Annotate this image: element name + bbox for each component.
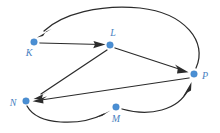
vertex-p-label: P	[201, 70, 208, 81]
edge-n-to-m-curve	[27, 106, 104, 122]
vertex-l-dot[interactable]	[107, 42, 114, 49]
vertex-p[interactable]: P	[191, 70, 208, 81]
vertex-m[interactable]: M	[111, 104, 121, 124]
vertex-l[interactable]: L	[107, 27, 117, 48]
vertex-m-label: M	[111, 113, 121, 124]
vertex-m-dot[interactable]	[113, 104, 120, 111]
edge-l-to-n-arrowhead	[34, 92, 48, 100]
edge-k-to-l	[40, 41, 106, 48]
edge-m-to-p-arrowhead	[183, 82, 192, 97]
edge-k-to-l-arrowhead	[93, 41, 105, 48]
edge-p-to-n	[33, 78, 190, 104]
edge-m-to-p-curve	[122, 90, 188, 112]
edge-p-to-k-curve	[44, 7, 199, 68]
graph-canvas: K L P N M	[0, 0, 220, 133]
vertex-p-dot[interactable]	[191, 71, 198, 78]
vertex-k[interactable]: K	[25, 39, 38, 58]
vertex-l-label: L	[109, 27, 116, 38]
edge-l-to-p-line	[115, 48, 181, 70]
vertex-n-label: N	[9, 97, 18, 108]
vertex-n[interactable]: N	[9, 97, 30, 108]
edge-l-to-n-line	[41, 50, 107, 94]
edge-n-to-m	[27, 106, 111, 122]
edge-p-to-k	[37, 7, 199, 68]
edge-l-to-p	[115, 48, 189, 74]
edge-p-to-n-line	[41, 78, 189, 100]
vertex-k-label: K	[25, 47, 34, 58]
vertex-n-dot[interactable]	[23, 98, 30, 105]
directed-graph-figure: K L P N M	[0, 0, 220, 133]
vertex-k-dot[interactable]	[31, 39, 38, 46]
edge-k-to-l-line	[40, 43, 101, 45]
